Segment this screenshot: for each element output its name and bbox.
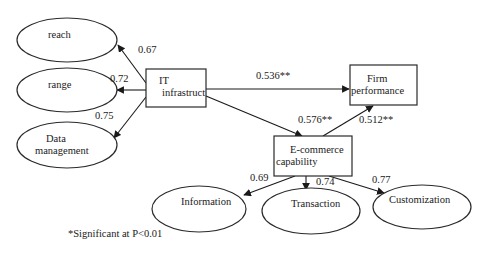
node-customization: Customization (373, 185, 471, 229)
weight-range: 0.72 (110, 73, 128, 84)
node-range: range (17, 68, 117, 112)
node-it-infrastructure: IT infrastruct (146, 69, 206, 107)
weight-information: 0.69 (250, 172, 268, 183)
weight-customization: 0.77 (372, 174, 390, 185)
edge-it-to-data-management (114, 97, 146, 138)
weight-data-management: 0.75 (95, 110, 113, 121)
node-reach: reach (17, 18, 117, 62)
node-transaction-label: Transaction (291, 198, 341, 209)
weight-ecommerce: 0.576** (298, 114, 332, 125)
sem-diagram: reach range Data management IT infrastru… (0, 0, 488, 253)
node-information: Information (152, 186, 246, 232)
node-ecommerce-capability-label-2: capability (276, 156, 318, 167)
weight-ecommerce-firm: 0.512** (359, 114, 393, 125)
node-transaction: Transaction (262, 188, 360, 234)
node-ecommerce-capability: E-commerce capability (274, 136, 352, 176)
edge-it-to-ecommerce (206, 96, 302, 136)
node-reach-label: reach (48, 29, 71, 40)
node-data-management-label-2: management (35, 145, 89, 156)
node-firm-performance-label-1: Firm (367, 73, 387, 84)
node-data-management-label-1: Data (46, 133, 66, 144)
weight-firm-performance: 0.536** (256, 70, 290, 81)
node-it-infrastructure-label-1: IT (159, 75, 169, 86)
node-data-management: Data management (17, 122, 117, 168)
footnote: *Significant at P<0.01 (68, 228, 162, 239)
node-customization-label: Customization (389, 194, 451, 205)
node-firm-performance-label-2: performance (351, 85, 404, 96)
node-firm-performance: Firm performance (350, 65, 417, 105)
weight-reach: 0.67 (138, 44, 156, 55)
weight-transaction: 0.74 (316, 176, 335, 187)
node-ecommerce-capability-label-1: E-commerce (290, 144, 344, 155)
node-it-infrastructure-label-2: infrastruct (162, 87, 205, 98)
node-information-label: Information (181, 196, 232, 207)
node-range-label: range (48, 79, 72, 90)
